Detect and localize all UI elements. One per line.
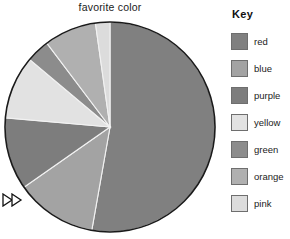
pie-slice-group <box>5 22 215 232</box>
legend-items: redbluepurpleyellowgreenorangepink <box>228 28 290 217</box>
legend-swatch-blue <box>231 60 248 77</box>
legend-item-orange: orange <box>228 163 290 190</box>
legend-title: Key <box>232 8 253 20</box>
legend-item-green: green <box>228 136 290 163</box>
legend-swatch-pink <box>231 195 248 212</box>
pie-chart-figure: favorite color Key redbluepurpleyellowgr… <box>0 0 290 239</box>
legend-swatch-purple <box>231 87 248 104</box>
legend-swatch-yellow <box>231 114 248 131</box>
legend: Key redbluepurpleyellowgreenorangepink <box>228 0 290 239</box>
legend-swatch-orange <box>231 168 248 185</box>
legend-label-orange: orange <box>254 171 284 182</box>
legend-label-yellow: yellow <box>254 117 280 128</box>
legend-swatch-red <box>231 33 248 50</box>
legend-item-blue: blue <box>228 55 290 82</box>
legend-item-pink: pink <box>228 190 290 217</box>
pie-svg <box>0 0 225 239</box>
legend-item-red: red <box>228 28 290 55</box>
legend-label-purple: purple <box>254 90 280 101</box>
legend-label-green: green <box>254 144 278 155</box>
pie-plot-area <box>0 0 225 239</box>
legend-item-yellow: yellow <box>228 109 290 136</box>
legend-label-blue: blue <box>254 63 272 74</box>
legend-item-purple: purple <box>228 82 290 109</box>
fast-forward-arrow-icon <box>2 193 24 207</box>
legend-label-red: red <box>254 36 268 47</box>
legend-swatch-green <box>231 141 248 158</box>
legend-label-pink: pink <box>254 198 271 209</box>
